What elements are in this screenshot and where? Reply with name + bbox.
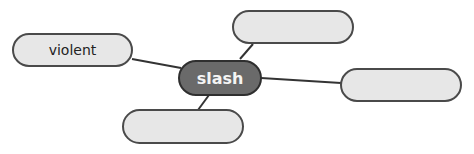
- node-center: slash: [178, 60, 262, 96]
- link-center-top: [240, 44, 253, 59]
- node-left-label: violent: [49, 42, 97, 58]
- link-center-left: [132, 59, 181, 68]
- node-right: [340, 68, 462, 102]
- link-center-bottom: [198, 95, 209, 110]
- node-top: [232, 10, 354, 44]
- word-web-diagram: violent slash: [0, 0, 474, 154]
- node-center-label: slash: [197, 69, 244, 88]
- link-center-right: [261, 78, 341, 83]
- node-bottom: [122, 109, 244, 144]
- node-left: violent: [12, 33, 133, 67]
